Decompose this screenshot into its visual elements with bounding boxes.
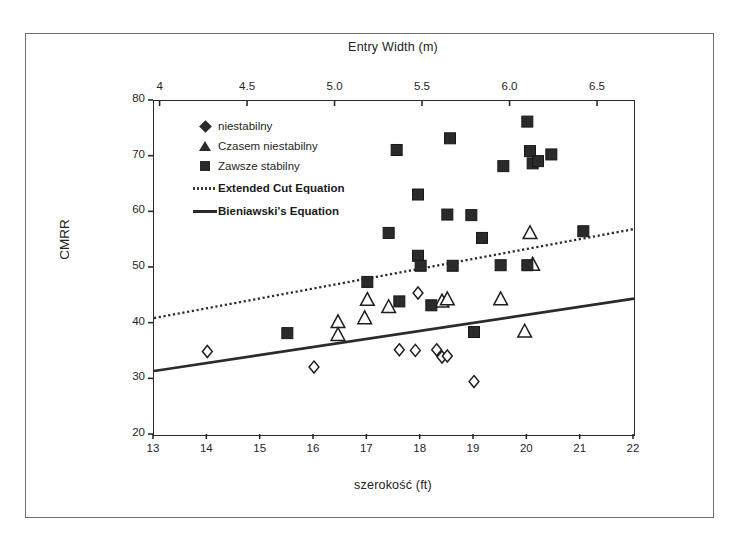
axis-tick-label: 5.0 [315,80,355,92]
axis-tick-label: 21 [562,442,598,454]
dotted-line-icon [192,187,218,190]
axis-tick-label: 20 [113,426,145,438]
axis-tick-label: 6.5 [577,80,617,92]
axis-tick-label: 20 [508,442,544,454]
axis-tick-label: 30 [113,370,145,382]
legend-label: Bieniawski's Equation [218,205,339,217]
legend-label: Zawsze stabilny [218,160,300,172]
axis-tick-label: 6.0 [490,80,530,92]
square-marker-icon [192,161,218,171]
axis-tick-label: 5.5 [402,80,442,92]
legend-item: Extended Cut Equation [192,176,407,200]
axis-tick-label: 40 [113,315,145,327]
axis-ticks [0,0,736,542]
axis-tick-label: 19 [455,442,491,454]
axis-tick-label: 60 [113,203,145,215]
solid-line-icon [192,210,218,213]
axis-tick-label: 14 [188,442,224,454]
axis-tick-label: 70 [113,148,145,160]
legend-item: niestabilny [192,116,407,136]
diamond-marker-icon [192,122,218,131]
figure-page: Entry Width (m) szerokość (ft) CMRR nies… [0,0,736,542]
axis-tick-label: 13 [135,442,171,454]
axis-tick-label: 16 [295,442,331,454]
legend: niestabilny Czasem niestabilny Zawsze st… [192,116,407,222]
legend-item: Bieniawski's Equation [192,200,407,222]
legend-item: Zawsze stabilny [192,156,407,176]
axis-tick-label: 4.5 [227,80,267,92]
axis-tick-label: 18 [402,442,438,454]
axis-tick-label: 80 [113,92,145,104]
axis-tick-label: 22 [615,442,651,454]
axis-tick-label: 15 [242,442,278,454]
legend-item: Czasem niestabilny [192,136,407,156]
legend-label: Extended Cut Equation [218,182,345,194]
legend-label: Czasem niestabilny [218,140,318,152]
axis-tick-label: 17 [348,442,384,454]
triangle-marker-icon [192,141,218,151]
axis-tick-label: 4 [140,80,180,92]
legend-label: niestabilny [218,120,272,132]
axis-tick-label: 50 [113,259,145,271]
